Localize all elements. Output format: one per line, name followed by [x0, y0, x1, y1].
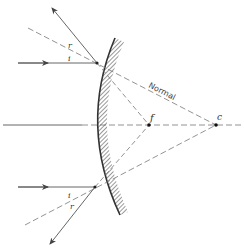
upper-reflected-angle-label: r: [68, 41, 73, 50]
lower-reflected-angle-label: r: [70, 202, 75, 211]
center-of-curvature-marker: [214, 123, 218, 127]
lower-incidence-point: [93, 185, 96, 188]
lower-incident-angle-label: i: [68, 191, 71, 200]
center-of-curvature-label: c: [217, 112, 222, 122]
focal-point-marker: [147, 123, 151, 127]
focal-point-label: f: [149, 112, 156, 123]
upper-incident-angle-label: i: [68, 54, 71, 63]
lower-reflected-ray: [50, 187, 95, 244]
upper-reflected-ray: [52, 8, 97, 63]
mirror-hatching: [98, 38, 128, 215]
convex-mirror-diagram: f c Normal r i i r: [0, 0, 244, 250]
upper-incidence-point: [95, 61, 98, 64]
